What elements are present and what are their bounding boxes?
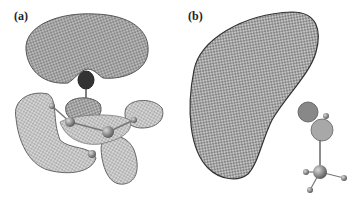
panel-a: (a)	[0, 0, 182, 206]
panel-b: (b)	[182, 0, 364, 206]
panel-b-orbital-figure	[182, 0, 364, 206]
panel-a-orbital-figure	[0, 0, 182, 206]
